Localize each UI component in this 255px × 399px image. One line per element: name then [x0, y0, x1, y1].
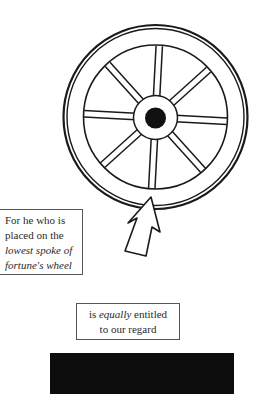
black-bar	[50, 353, 234, 394]
spoke-line	[155, 138, 158, 189]
spoke-line	[175, 122, 226, 125]
caption-line-italic: lowest spoke of	[5, 243, 82, 258]
caption-box-left: For he who is placed on the lowest spoke…	[0, 209, 83, 275]
spoke-line	[173, 72, 211, 106]
spoke-line	[105, 67, 139, 105]
caption-line: to our regard	[77, 322, 179, 337]
wheel-axle	[145, 108, 166, 129]
spoke-line	[171, 130, 205, 168]
spoke-line	[168, 67, 206, 101]
caption-text: is	[89, 308, 99, 320]
spoke-line	[160, 46, 163, 97]
caption-line: is equally entitled	[77, 307, 179, 322]
caption-line: placed on the	[5, 228, 82, 243]
caption-text: entitled	[131, 308, 167, 320]
spoke-line	[105, 133, 143, 167]
spoke-line	[167, 135, 201, 173]
caption-line: For he who is	[5, 213, 82, 228]
spoke-line	[153, 46, 156, 97]
spoke-line	[100, 129, 138, 163]
caption-line-italic: fortune's wheel	[5, 258, 82, 273]
spoke-line	[84, 111, 135, 114]
spoke-line	[110, 62, 144, 100]
spoke-line	[84, 117, 135, 120]
caption-box-center: is equally entitled to our regard	[76, 303, 180, 340]
wheel	[64, 25, 248, 209]
spoke-line	[176, 115, 227, 118]
caption-emphasis: equally	[99, 308, 131, 320]
spoke-line	[149, 137, 152, 188]
